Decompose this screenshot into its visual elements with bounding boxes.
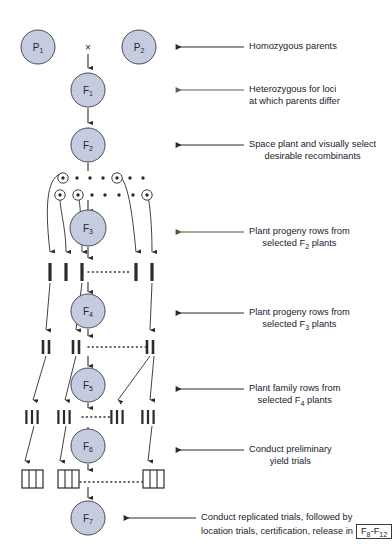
progeny-row-group[interactable] [57, 410, 70, 424]
row-bar [48, 263, 51, 281]
annotation-line: selected F2 plants [249, 238, 350, 250]
f2-selected-plant[interactable] [55, 190, 65, 200]
annotation-label-progeny-rows-f2: Plant progeny rows fromselected F2 plant… [249, 226, 350, 249]
annotation-line: at which parents differ [249, 96, 340, 108]
f2-plant-dot[interactable] [103, 193, 106, 196]
plot-outline [58, 470, 79, 488]
annotation-line: Heterozygous for loci [249, 84, 340, 96]
row-bar [110, 410, 112, 424]
annotation-label-progeny-rows-f3: Plant progeny rows fromselected F3 plant… [249, 307, 350, 330]
annotation-line: Plant family rows from [249, 383, 340, 395]
row-bar [25, 410, 27, 424]
progeny-row-group[interactable] [48, 263, 51, 281]
plot-outline [22, 470, 43, 488]
annotation-line: Plant progeny rows from [249, 307, 350, 319]
annotation-line: Conduct preliminary [249, 444, 332, 456]
generation-range-box: F8-F12 [356, 524, 392, 539]
row-bar [48, 340, 51, 354]
f2-plant-dot[interactable] [101, 176, 104, 179]
annotation-label-space-plant-select: Space plant and visually selectdesirable… [249, 139, 376, 162]
progeny-row-group[interactable] [72, 340, 81, 354]
f2-selected-plant[interactable] [73, 190, 83, 200]
progeny-row-group[interactable] [80, 263, 83, 281]
row-bar [80, 263, 83, 281]
row-bar [150, 263, 153, 281]
progeny-row-group[interactable] [25, 410, 38, 424]
yield-trial-plot[interactable] [58, 470, 79, 488]
plant-dot [58, 193, 61, 196]
plant-dot [101, 176, 104, 179]
row-bar [42, 340, 45, 354]
annotation-line: selected F4 plants [249, 395, 340, 407]
generation-node-p1[interactable]: P1 [21, 30, 55, 64]
generation-node-f3[interactable]: F3 [70, 210, 106, 246]
annotation-arrows [124, 47, 244, 518]
row-bar [122, 410, 124, 424]
f2-plant-dot[interactable] [88, 176, 91, 179]
row-bar [63, 410, 65, 424]
plant-dot [103, 193, 106, 196]
plant-dot [145, 193, 148, 196]
annotation-line: location trials, certification, release … [201, 524, 392, 539]
generation-node-f7[interactable]: F7 [71, 501, 105, 535]
progeny-row-group[interactable] [42, 340, 51, 354]
cross-symbol: × [85, 42, 91, 53]
yield-trial-plot[interactable] [22, 470, 43, 488]
f4-rows [42, 340, 155, 354]
row-bar [72, 340, 75, 354]
plant-dot [128, 176, 131, 179]
progeny-row-group[interactable] [146, 340, 155, 354]
row-bar [153, 410, 155, 424]
progeny-row-group[interactable] [150, 263, 153, 281]
generation-node-p2[interactable]: P2 [122, 30, 156, 64]
plant-dot [75, 176, 78, 179]
row-bar [31, 410, 33, 424]
row-bar [69, 410, 71, 424]
generation-node-f4[interactable]: F4 [71, 294, 105, 328]
annotation-line: Space plant and visually select [249, 139, 376, 151]
annotation-label-heterozygous-loci: Heterozygous for lociat which parents di… [249, 84, 340, 107]
annotation-line: selected F3 plants [249, 319, 350, 331]
f2-selected-plant[interactable] [58, 173, 68, 183]
progeny-row-group[interactable] [110, 410, 123, 424]
generation-node-f2[interactable]: F2 [71, 128, 105, 162]
plant-dot [76, 193, 79, 196]
row-bar [134, 263, 137, 281]
plant-dot [115, 176, 118, 179]
annotation-label-homozygous-parents: Homozygous parents [249, 41, 337, 53]
annotation-label-family-rows-f4: Plant family rows fromselected F4 plants [249, 383, 340, 406]
progeny-row-group[interactable] [134, 263, 137, 281]
row-bar [57, 410, 59, 424]
f2-selected-plant[interactable] [142, 190, 152, 200]
generation-node-f6[interactable]: F6 [71, 429, 105, 463]
plant-dot [141, 176, 144, 179]
annotation-line: Plant progeny rows from [249, 226, 350, 238]
annotation-line: Conduct replicated trials, followed by [201, 512, 392, 524]
cross-symbol-group: × [85, 42, 91, 53]
plant-dot [131, 193, 134, 196]
plant-dot [117, 193, 120, 196]
f2-plant-dot[interactable] [90, 193, 93, 196]
f2-plant-dot[interactable] [75, 176, 78, 179]
row-bar [116, 410, 118, 424]
annotation-label-replicated-trials: Conduct replicated trials, followed bylo… [201, 512, 392, 539]
f2-selected-plant[interactable] [112, 173, 122, 183]
annotation-label-preliminary-yield-trials: Conduct preliminaryyield trials [249, 444, 332, 467]
plot-outline [143, 470, 164, 488]
plant-dot [90, 193, 93, 196]
progeny-row-group[interactable] [64, 263, 67, 281]
f2-plant-dot[interactable] [141, 176, 144, 179]
yield-trial-plot[interactable] [143, 470, 164, 488]
generation-node-f5[interactable]: F5 [71, 368, 105, 402]
f2-plant-dot[interactable] [131, 193, 134, 196]
f2-plant-dot[interactable] [128, 176, 131, 179]
f6-plots [22, 470, 164, 488]
progeny-row-group[interactable] [141, 410, 154, 424]
f2-plant-dot[interactable] [117, 193, 120, 196]
f3-rows [48, 263, 153, 281]
generation-node-f1[interactable]: F1 [71, 73, 105, 107]
plant-dot [88, 176, 91, 179]
f2-population-dots [55, 173, 152, 200]
